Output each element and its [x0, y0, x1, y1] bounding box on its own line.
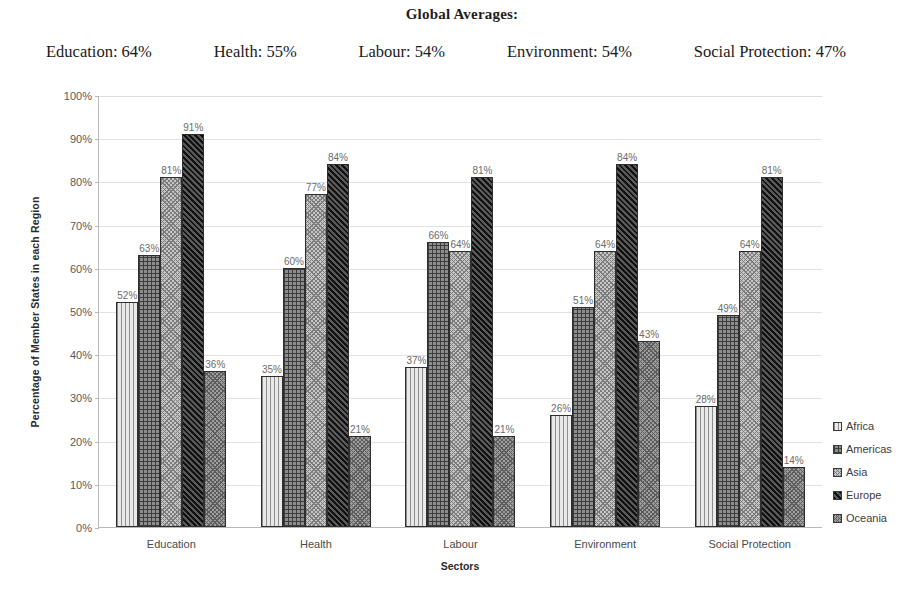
bar-value-label: 64%	[740, 239, 760, 250]
bar-value-label: 35%	[262, 364, 282, 375]
gridline-0	[99, 528, 822, 529]
legend-swatch-africa-icon	[833, 422, 842, 431]
bar-africa-health[interactable]: 35%	[261, 376, 283, 527]
x-axis-tick-social-protection: Social Protection	[708, 538, 791, 550]
y-axis-tick-90: 90%	[70, 133, 92, 145]
y-axis-tick-50: 50%	[70, 306, 92, 318]
legend-label: Africa	[846, 420, 874, 432]
bar-europe-labour[interactable]: 81%	[471, 177, 493, 527]
bar-value-label: 81%	[161, 165, 181, 176]
bar-value-label: 26%	[551, 403, 571, 414]
global-average-education: Education: 64%	[46, 42, 152, 62]
bar-europe-environment[interactable]: 84%	[616, 164, 638, 527]
bar-oceania-education[interactable]: 36%	[204, 371, 226, 527]
bar-africa-labour[interactable]: 37%	[405, 367, 427, 527]
bar-value-label: 91%	[183, 122, 203, 133]
bar-oceania-health[interactable]: 21%	[349, 436, 371, 527]
bar-europe-social-protection[interactable]: 81%	[761, 177, 783, 527]
bar-africa-education[interactable]: 52%	[116, 302, 138, 527]
y-axis-tick-40: 40%	[70, 349, 92, 361]
bar-value-label: 21%	[494, 424, 514, 435]
plot-area: 100%90%80%70%60%50%40%30%20%10%0% 52%63%…	[98, 96, 822, 528]
bars: 37%66%64%81%21%	[405, 96, 515, 527]
legend-swatch-asia-icon	[833, 468, 842, 477]
legend-item-africa[interactable]: Africa	[833, 420, 892, 432]
bar-group-labour: 37%66%64%81%21%Labour	[388, 96, 533, 527]
legend-label: Oceania	[846, 512, 887, 524]
legend-label: Americas	[846, 443, 892, 455]
legend-item-asia[interactable]: Asia	[833, 466, 892, 478]
x-axis-tick-environment: Environment	[574, 538, 636, 550]
bar-value-label: 28%	[696, 394, 716, 405]
bar-asia-labour[interactable]: 64%	[449, 251, 471, 527]
bars: 28%49%64%81%14%	[695, 96, 805, 527]
y-axis-tick-mark-0	[95, 528, 99, 529]
y-axis-tick-0: 0%	[76, 522, 92, 534]
bars: 35%60%77%84%21%	[261, 96, 371, 527]
bar-value-label: 66%	[428, 230, 448, 241]
bar-value-label: 77%	[306, 182, 326, 193]
global-average-labour: Labour: 54%	[358, 42, 445, 62]
x-axis-tick-health: Health	[300, 538, 332, 550]
bar-group-health: 35%60%77%84%21%Health	[244, 96, 389, 527]
y-axis-title: Percentage of Member States in each Regi…	[26, 96, 44, 528]
y-axis-tick-70: 70%	[70, 220, 92, 232]
y-axis-tick-80: 80%	[70, 176, 92, 188]
bar-value-label: 64%	[595, 239, 615, 250]
bar-value-label: 36%	[205, 359, 225, 370]
bar-group-education: 52%63%81%91%36%Education	[99, 96, 244, 527]
legend-swatch-oceania-icon	[833, 514, 842, 523]
legend-label: Europe	[846, 489, 881, 501]
bar-value-label: 60%	[284, 256, 304, 267]
bar-value-label: 63%	[139, 243, 159, 254]
bar-americas-labour[interactable]: 66%	[427, 242, 449, 527]
bar-value-label: 14%	[784, 455, 804, 466]
legend-swatch-americas-icon	[833, 445, 842, 454]
bar-oceania-environment[interactable]: 43%	[638, 341, 660, 527]
legend-swatch-europe-icon	[833, 491, 842, 500]
global-averages-row: Education: 64% Health: 55% Labour: 54% E…	[46, 42, 846, 62]
y-axis-tick-10: 10%	[70, 479, 92, 491]
global-average-health: Health: 55%	[214, 42, 297, 62]
y-axis-tick-20: 20%	[70, 436, 92, 448]
bar-group-environment: 26%51%64%84%43%Environment	[533, 96, 678, 527]
bar-africa-environment[interactable]: 26%	[550, 415, 572, 527]
x-axis-tick-labour: Labour	[443, 538, 477, 550]
legend-label: Asia	[846, 466, 867, 478]
bars: 26%51%64%84%43%	[550, 96, 660, 527]
bar-groups: 52%63%81%91%36%Education35%60%77%84%21%H…	[99, 96, 822, 527]
bar-oceania-labour[interactable]: 21%	[493, 436, 515, 527]
bar-value-label: 81%	[472, 165, 492, 176]
chart-container: Global Averages: Education: 64% Health: …	[0, 0, 924, 593]
bar-asia-education[interactable]: 81%	[160, 177, 182, 527]
bar-africa-social-protection[interactable]: 28%	[695, 406, 717, 527]
bar-europe-health[interactable]: 84%	[327, 164, 349, 527]
bar-value-label: 52%	[117, 290, 137, 301]
legend-item-oceania[interactable]: Oceania	[833, 512, 892, 524]
legend: AfricaAmericasAsiaEuropeOceania	[833, 420, 892, 535]
bar-europe-education[interactable]: 91%	[182, 134, 204, 527]
global-average-environment: Environment: 54%	[507, 42, 632, 62]
bar-value-label: 51%	[573, 295, 593, 306]
bar-asia-social-protection[interactable]: 64%	[739, 251, 761, 527]
bar-value-label: 64%	[450, 239, 470, 250]
bar-americas-social-protection[interactable]: 49%	[717, 315, 739, 527]
bar-americas-education[interactable]: 63%	[138, 255, 160, 527]
bar-value-label: 43%	[639, 329, 659, 340]
bar-value-label: 21%	[350, 424, 370, 435]
bars: 52%63%81%91%36%	[116, 96, 226, 527]
x-axis-title: Sectors	[98, 560, 822, 572]
bar-value-label: 81%	[762, 165, 782, 176]
bar-oceania-social-protection[interactable]: 14%	[783, 467, 805, 527]
global-average-social-protection: Social Protection: 47%	[694, 42, 846, 62]
x-axis-tick-education: Education	[147, 538, 196, 550]
y-axis-title-text: Percentage of Member States in each Regi…	[29, 197, 41, 428]
legend-item-europe[interactable]: Europe	[833, 489, 892, 501]
bar-asia-environment[interactable]: 64%	[594, 251, 616, 527]
y-axis-tick-60: 60%	[70, 263, 92, 275]
legend-item-americas[interactable]: Americas	[833, 443, 892, 455]
bar-americas-health[interactable]: 60%	[283, 268, 305, 527]
bar-asia-health[interactable]: 77%	[305, 194, 327, 527]
chart-title: Global Averages:	[0, 6, 924, 23]
bar-americas-environment[interactable]: 51%	[572, 307, 594, 527]
